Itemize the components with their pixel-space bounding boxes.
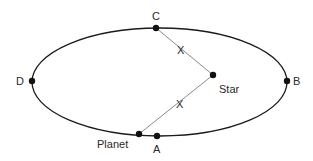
label-planet: Planet — [97, 138, 128, 150]
point-b — [284, 78, 290, 84]
label-b: B — [293, 75, 300, 87]
point-a — [154, 133, 160, 139]
orbit-ellipse — [32, 28, 287, 136]
planet-dot — [136, 131, 142, 137]
distance-label-upper: X — [177, 44, 185, 56]
orbit-diagram: X X C D B A Star Planet — [0, 0, 313, 161]
star-dot — [210, 72, 216, 78]
point-d — [29, 78, 35, 84]
point-c — [153, 25, 159, 31]
distance-label-lower: X — [176, 98, 184, 110]
label-a: A — [153, 143, 161, 155]
label-star: Star — [219, 83, 240, 95]
segment-c-to-star — [156, 28, 213, 75]
label-d: D — [16, 75, 24, 87]
label-c: C — [152, 10, 160, 22]
